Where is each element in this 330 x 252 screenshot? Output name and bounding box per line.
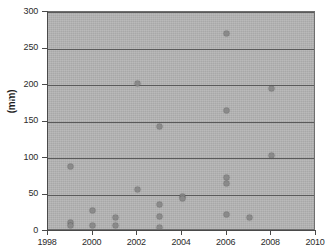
data-point — [269, 153, 274, 158]
data-point — [157, 214, 162, 219]
gridline — [48, 158, 314, 159]
data-point — [180, 196, 185, 201]
x-axis-tick-label: 1998 — [27, 237, 67, 247]
gridline — [48, 49, 314, 50]
data-point — [113, 215, 118, 220]
data-point — [269, 86, 274, 91]
plot-area — [47, 11, 315, 230]
data-point — [224, 31, 229, 36]
y-axis-tick — [42, 11, 47, 12]
scan-artifact-speck — [9, 99, 12, 101]
data-point — [135, 187, 140, 192]
data-point — [224, 108, 229, 113]
y-axis-tick-label: 300 — [0, 7, 38, 16]
x-axis-tick-label: 2010 — [295, 237, 330, 247]
y-axis-tick — [42, 84, 47, 85]
scatter-chart: 050100150200250300 (mm) 1998200020022004… — [0, 0, 330, 252]
y-axis-tick-label: 250 — [0, 43, 38, 52]
y-axis-tick — [42, 157, 47, 158]
data-point — [247, 215, 252, 220]
x-axis-tick — [181, 231, 182, 235]
x-axis-tick — [315, 231, 316, 235]
y-axis-tick — [42, 194, 47, 195]
data-point — [68, 223, 73, 228]
x-axis-tick-label: 2008 — [250, 237, 290, 247]
data-point — [224, 212, 229, 217]
data-point — [113, 223, 118, 228]
y-axis-tick — [42, 48, 47, 49]
data-point — [68, 164, 73, 169]
data-point — [90, 223, 95, 228]
x-axis-tick — [92, 231, 93, 235]
x-axis-tick — [226, 231, 227, 235]
data-point — [90, 208, 95, 213]
y-axis-tick-label: 0 — [0, 226, 38, 235]
data-point — [157, 202, 162, 207]
y-axis-tick-label: 50 — [0, 189, 38, 198]
gridline — [48, 85, 314, 86]
y-axis-tick — [42, 121, 47, 122]
gridline — [48, 12, 314, 13]
y-axis-tick-label: 100 — [0, 153, 38, 162]
x-axis-tick-label: 2006 — [206, 237, 246, 247]
x-axis-tick — [270, 231, 271, 235]
y-axis-line — [47, 11, 48, 231]
y-axis-title: (mm) — [6, 78, 17, 126]
gridline — [48, 122, 314, 123]
data-point — [224, 175, 229, 180]
x-axis-tick — [136, 231, 137, 235]
x-axis-tick-label: 2002 — [116, 237, 156, 247]
x-axis-tick-label: 2000 — [72, 237, 112, 247]
x-axis-tick — [47, 231, 48, 235]
data-point — [224, 181, 229, 186]
data-point — [135, 81, 140, 86]
data-point — [157, 124, 162, 129]
x-axis-tick-label: 2004 — [161, 237, 201, 247]
